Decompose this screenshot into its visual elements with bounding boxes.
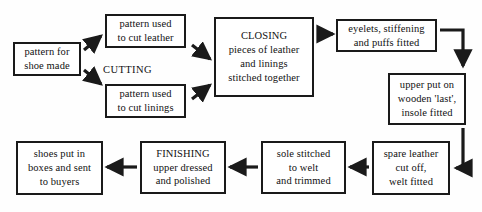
node-pattern-for-shoe-made[interactable]: pattern forshoe made	[13, 42, 81, 76]
node-sole-stitched-to-welt[interactable]: sole stitchedto weltand trimmed	[261, 141, 346, 194]
node-text-line: upper dressed	[153, 161, 212, 175]
flowchart-canvas: pattern forshoe made pattern usedto cut …	[0, 0, 482, 212]
node-text-line: CLOSING	[241, 29, 287, 43]
node-text-line: to cut leather	[117, 31, 173, 45]
node-text-line: to welt	[289, 161, 319, 175]
node-text-line: eyelets, stiffening	[348, 22, 424, 36]
node-text-line: wooden 'last',	[398, 92, 456, 106]
arrow-leather-to-closing	[192, 45, 210, 59]
node-text-line: cut off,	[396, 161, 427, 175]
node-text-line: boxes and sent	[28, 161, 91, 175]
node-finishing[interactable]: FINISHINGupper dressedand polished	[140, 141, 226, 194]
arrow-upper-to-spare	[456, 128, 463, 168]
node-text-line: and linings	[240, 57, 287, 71]
node-text-line: and trimmed	[276, 174, 330, 188]
node-text-line: pattern for	[24, 45, 69, 59]
node-pattern-used-to-cut-linings[interactable]: pattern usedto cut linings	[105, 84, 186, 118]
node-pattern-used-to-cut-leather[interactable]: pattern usedto cut leather	[105, 14, 186, 48]
node-text-line: FINISHING	[156, 147, 209, 161]
node-text-line: upper put on	[400, 78, 454, 92]
node-text-line: shoes put in	[34, 147, 85, 161]
node-text-line: shoe made	[24, 59, 70, 73]
node-upper-put-on-last[interactable]: upper put onwooden 'last',insole fitted	[388, 73, 466, 125]
node-text-line: to cut linings	[117, 101, 173, 115]
node-text-line: sole stitched	[277, 147, 331, 161]
node-spare-leather-cut-off[interactable]: spare leathercut off,welt fitted	[372, 141, 450, 195]
node-text-line: welt fitted	[389, 175, 433, 189]
node-text-line: stitched together	[228, 71, 299, 85]
arrow-linings-to-closing	[192, 85, 210, 99]
node-text-line: pattern used	[119, 87, 171, 101]
node-text-line: pattern used	[119, 17, 171, 31]
node-text-line: and puffs fitted	[354, 36, 420, 50]
node-closing[interactable]: CLOSINGpieces of leatherand liningsstitc…	[214, 17, 314, 97]
node-text-line: to buyers	[40, 175, 80, 189]
node-text-line: insole fitted	[401, 106, 452, 120]
node-text-line: pieces of leather	[229, 43, 300, 57]
node-eyelets-stiffening-puffs[interactable]: eyelets, stiffeningand puffs fitted	[336, 19, 437, 52]
arrow-pattern-to-linings	[84, 70, 101, 84]
node-shoes-put-in-boxes[interactable]: shoes put inboxes and sentto buyers	[16, 141, 103, 195]
arrow-eyelets-to-upper	[440, 30, 463, 66]
node-text-line: spare leather	[384, 147, 439, 161]
node-text-line: and polished	[156, 174, 211, 188]
caption-cutting: CUTTING	[103, 64, 152, 75]
arrow-pattern-to-leather	[84, 36, 101, 50]
